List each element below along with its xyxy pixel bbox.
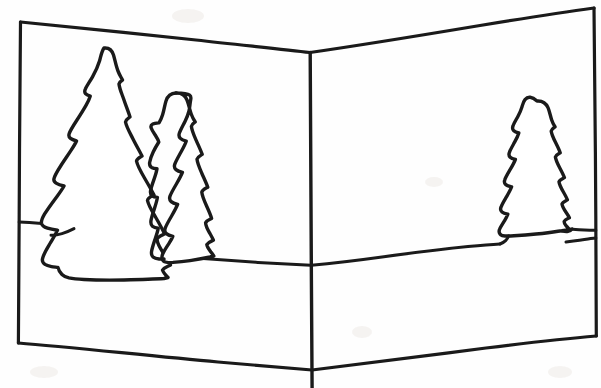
card-top-edge-right bbox=[310, 8, 594, 53]
paper-smudge bbox=[172, 9, 204, 23]
card-top-edge-left bbox=[21, 22, 311, 53]
paper-smudge bbox=[352, 326, 372, 338]
card-sketch-svg bbox=[0, 0, 601, 388]
horizon-line-right-far bbox=[566, 238, 596, 242]
horizon-line-right-tail bbox=[569, 229, 596, 230]
card-right-edge bbox=[594, 8, 596, 336]
card-bottom-edge-right bbox=[312, 336, 596, 370]
horizon-line-right bbox=[311, 244, 500, 265]
sketch-canvas: Hand-drawn greeting card sketch open fol… bbox=[0, 0, 601, 388]
horizon-line-left-mid bbox=[196, 258, 311, 265]
paper-smudge bbox=[30, 366, 58, 378]
tree-medium-left bbox=[162, 93, 214, 263]
card-left-edge bbox=[18, 22, 20, 343]
card-center-fold bbox=[310, 53, 312, 388]
tree-small-right bbox=[499, 97, 569, 236]
paper-smudge bbox=[425, 177, 443, 187]
paper-smudge bbox=[548, 366, 572, 378]
card-bottom-edge-left bbox=[18, 343, 312, 370]
